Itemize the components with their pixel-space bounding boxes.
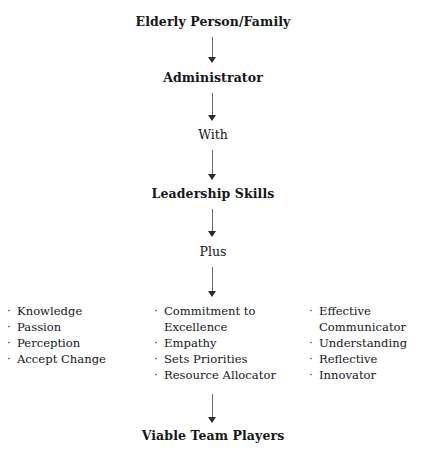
arrow-shaft (212, 267, 213, 292)
bullet-icon: · (7, 351, 17, 367)
arrow-attributes-to-outcome (207, 394, 218, 423)
list-item-label: Sets Priorities (164, 352, 248, 366)
attribute-columns: ·Knowledge ·Passion ·Perception ·Accept … (0, 303, 426, 393)
list-item: ·Innovator (309, 367, 426, 383)
arrow-shaft (212, 37, 213, 58)
bullet-icon: · (7, 319, 17, 335)
list-item-continuation: Communicator (309, 319, 426, 335)
arrow-shaft (212, 150, 213, 175)
list-item-label: Knowledge (17, 304, 82, 318)
bullet-icon: · (309, 367, 319, 383)
bullet-icon: · (309, 303, 319, 319)
list-item-label: Accept Change (17, 352, 106, 366)
list-item-label: Excellence (164, 320, 227, 334)
list-item: ·Passion (7, 319, 147, 335)
node-plus: Plus (0, 245, 426, 259)
arrow-leadership-skills-to-plus (207, 209, 218, 237)
list-item-label: Understanding (319, 336, 407, 350)
bullet-icon: · (154, 335, 164, 351)
list-item-continuation: Excellence (154, 319, 304, 335)
list-item: ·Accept Change (7, 351, 147, 367)
list-item-label: Perception (17, 336, 80, 350)
list-item-label: Passion (17, 320, 61, 334)
arrow-head (208, 174, 216, 180)
arrow-head (208, 291, 216, 297)
attribute-column-middle: ·Commitment to Excellence ·Empathy ·Sets… (154, 303, 304, 383)
list-item: ·Sets Priorities (154, 351, 304, 367)
list-item-label: Effective (319, 304, 371, 318)
arrow-with-to-leadership-skills (207, 150, 218, 180)
arrow-head (208, 115, 216, 121)
bullet-icon: · (154, 351, 164, 367)
bullet-icon: · (154, 303, 164, 319)
list-item: ·Empathy (154, 335, 304, 351)
list-item: ·Reflective (309, 351, 426, 367)
arrow-administrator-to-with (207, 93, 218, 121)
node-administrator: Administrator (0, 71, 426, 85)
arrow-head (208, 417, 216, 423)
arrow-shaft (212, 93, 213, 116)
arrow-shaft (212, 209, 213, 232)
arrow-head (208, 231, 216, 237)
node-viable-team-players: Viable Team Players (0, 429, 426, 443)
bullet-icon: · (7, 335, 17, 351)
node-with: With (0, 128, 426, 142)
flowchart-canvas: Elderly Person/Family Administrator With… (0, 0, 426, 456)
node-leadership-skills: Leadership Skills (0, 187, 426, 201)
list-item-label: Empathy (164, 336, 216, 350)
list-item-label: Resource Allocator (164, 368, 276, 382)
arrow-start-to-administrator (207, 37, 218, 63)
arrow-shaft (212, 394, 213, 418)
attribute-column-left: ·Knowledge ·Passion ·Perception ·Accept … (7, 303, 147, 367)
list-item-label: Communicator (319, 320, 406, 334)
list-item: ·Perception (7, 335, 147, 351)
bullet-icon: · (309, 335, 319, 351)
bullet-icon: · (309, 351, 319, 367)
bullet-icon: · (154, 367, 164, 383)
list-item-label: Reflective (319, 352, 377, 366)
arrow-plus-to-attributes (207, 267, 218, 297)
list-item: ·Resource Allocator (154, 367, 304, 383)
attribute-column-right: ·Effective Communicator ·Understanding ·… (309, 303, 426, 383)
list-item-label: Innovator (319, 368, 376, 382)
list-item: ·Understanding (309, 335, 426, 351)
list-item: ·Effective (309, 303, 426, 319)
list-item: ·Commitment to (154, 303, 304, 319)
arrow-head (208, 57, 216, 63)
list-item: ·Knowledge (7, 303, 147, 319)
list-item-label: Commitment to (164, 304, 256, 318)
bullet-icon: · (7, 303, 17, 319)
node-elderly-person-family: Elderly Person/Family (0, 15, 426, 29)
